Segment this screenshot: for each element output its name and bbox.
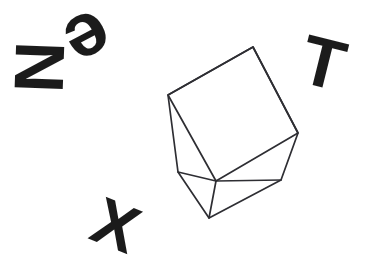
cube-outline — [168, 47, 298, 218]
cube-top-face — [168, 47, 298, 181]
next-logo-canvas: N e X T — [0, 0, 374, 275]
letter-n: N — [3, 40, 75, 94]
cube-front-vertical-edge — [209, 181, 216, 218]
cube-bottom-right-edge — [216, 180, 281, 181]
